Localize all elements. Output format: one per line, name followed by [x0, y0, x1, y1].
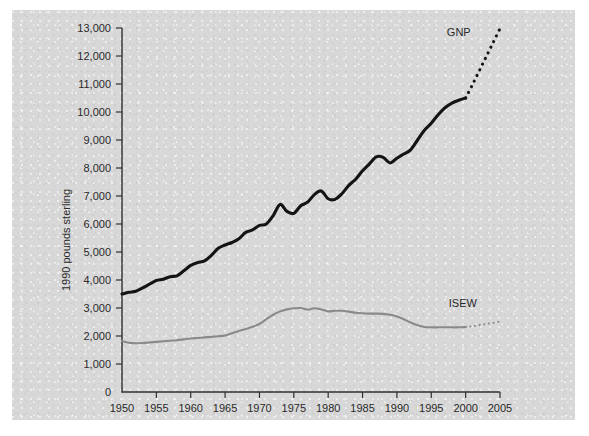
y-tick-label: 8,000	[83, 162, 111, 174]
x-tick-label: 2005	[488, 402, 512, 414]
x-tick-label: 1990	[385, 402, 409, 414]
x-tick-label: 1950	[110, 402, 134, 414]
y-tick-label: 12,000	[77, 50, 111, 62]
y-axis-title: 1990 pounds sterling	[60, 189, 72, 291]
y-tick-label: 0	[105, 386, 111, 398]
isew-projection-line	[466, 321, 500, 327]
series-label-gnp: GNP	[447, 26, 471, 38]
x-tick-label: 1955	[144, 402, 168, 414]
y-tick-label: 9,000	[83, 134, 111, 146]
y-tick-label: 5,000	[83, 246, 111, 258]
x-tick-label: 1970	[247, 402, 271, 414]
x-tick-label: 1980	[316, 402, 340, 414]
y-tick-label: 10,000	[77, 106, 111, 118]
line-chart: 01,0002,0003,0004,0005,0006,0007,0008,00…	[0, 0, 589, 436]
y-tick-label: 13,000	[77, 22, 111, 34]
isew-series-line	[122, 308, 466, 343]
y-tick-label: 3,000	[83, 302, 111, 314]
chart-figure: 01,0002,0003,0004,0005,0006,0007,0008,00…	[0, 0, 589, 436]
y-tick-label: 11,000	[78, 78, 111, 90]
x-tick-label: 1965	[213, 402, 237, 414]
series-label-isew: ISEW	[449, 297, 478, 309]
y-tick-label: 2,000	[83, 330, 111, 342]
y-tick-label: 6,000	[83, 218, 111, 230]
chart-axes	[122, 28, 500, 392]
x-tick-label: 1960	[178, 402, 202, 414]
gnp-series-line	[122, 98, 466, 294]
y-tick-label: 1,000	[83, 358, 111, 370]
y-tick-label: 4,000	[83, 274, 111, 286]
x-tick-label: 2000	[453, 402, 477, 414]
x-tick-label: 1975	[282, 402, 306, 414]
x-tick-label: 1985	[350, 402, 374, 414]
x-tick-label: 1995	[419, 402, 443, 414]
gnp-projection-line	[466, 29, 500, 98]
y-tick-label: 7,000	[83, 190, 111, 202]
